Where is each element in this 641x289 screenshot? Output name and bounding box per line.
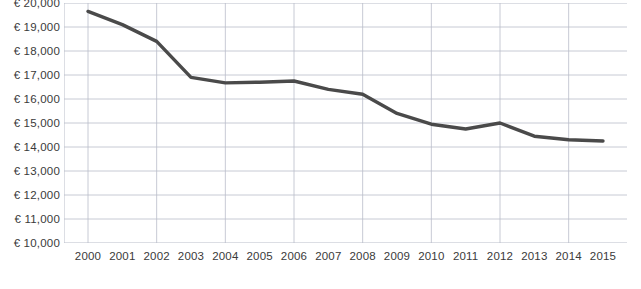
line-chart: € 10,000€ 11,000€ 12,000€ 13,000€ 14,000… (0, 0, 641, 289)
y-tick-label: € 13,000 (14, 165, 60, 177)
x-tick-label: 2015 (590, 250, 616, 262)
y-tick-label: € 16,000 (14, 93, 60, 105)
caption-strip (0, 279, 641, 289)
y-tick-label: € 15,000 (14, 117, 60, 129)
y-axis: € 10,000€ 11,000€ 12,000€ 13,000€ 14,000… (0, 0, 64, 289)
y-tick-label: € 18,000 (14, 45, 60, 57)
x-tick-label: 2012 (487, 250, 513, 262)
y-tick-label: € 12,000 (14, 189, 60, 201)
data-series-line (88, 11, 603, 141)
x-tick-label: 2011 (453, 250, 479, 262)
x-tick-label: 2013 (521, 250, 547, 262)
y-tick-label: € 10,000 (14, 237, 60, 249)
y-tick-label: € 11,000 (14, 213, 60, 225)
y-tick-label: € 20,000 (14, 0, 60, 9)
x-tick-label: 2014 (555, 250, 581, 262)
x-tick-label: 2006 (281, 250, 307, 262)
plot-svg (64, 3, 627, 243)
plot-area (64, 3, 627, 243)
x-tick-label: 2004 (212, 250, 238, 262)
x-tick-label: 2009 (384, 250, 410, 262)
x-tick-label: 2005 (246, 250, 272, 262)
y-tick-label: € 17,000 (14, 69, 60, 81)
y-tick-label: € 14,000 (14, 141, 60, 153)
x-tick-label: 2008 (349, 250, 375, 262)
x-tick-label: 2010 (418, 250, 444, 262)
x-tick-label: 2002 (143, 250, 169, 262)
y-tick-label: € 19,000 (14, 21, 60, 33)
x-tick-label: 2001 (109, 250, 135, 262)
x-tick-label: 2000 (75, 250, 101, 262)
x-axis: 2000200120022003200420052006200720082009… (64, 250, 627, 270)
x-tick-label: 2007 (315, 250, 341, 262)
x-tick-label: 2003 (178, 250, 204, 262)
